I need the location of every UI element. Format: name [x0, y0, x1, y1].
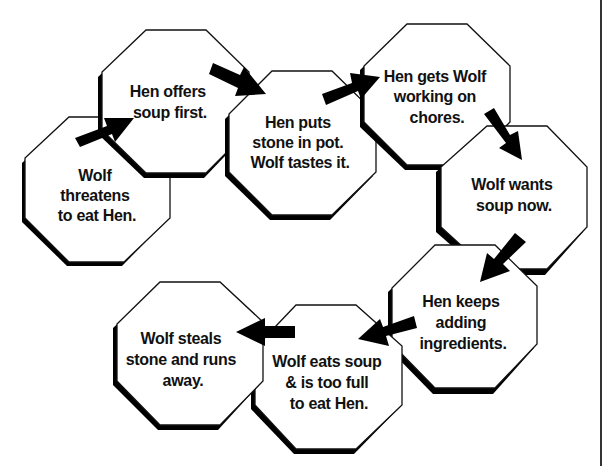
node-label: Hen puts stone in pot. Wolf tastes it. — [250, 114, 349, 171]
node-wolf-steals-stone: Wolf steals stone and runs away. — [113, 282, 263, 430]
page-border-line — [600, 0, 602, 466]
story-sequence-diagram: Wolf threatens to eat Hen. Hen offers so… — [0, 0, 607, 466]
